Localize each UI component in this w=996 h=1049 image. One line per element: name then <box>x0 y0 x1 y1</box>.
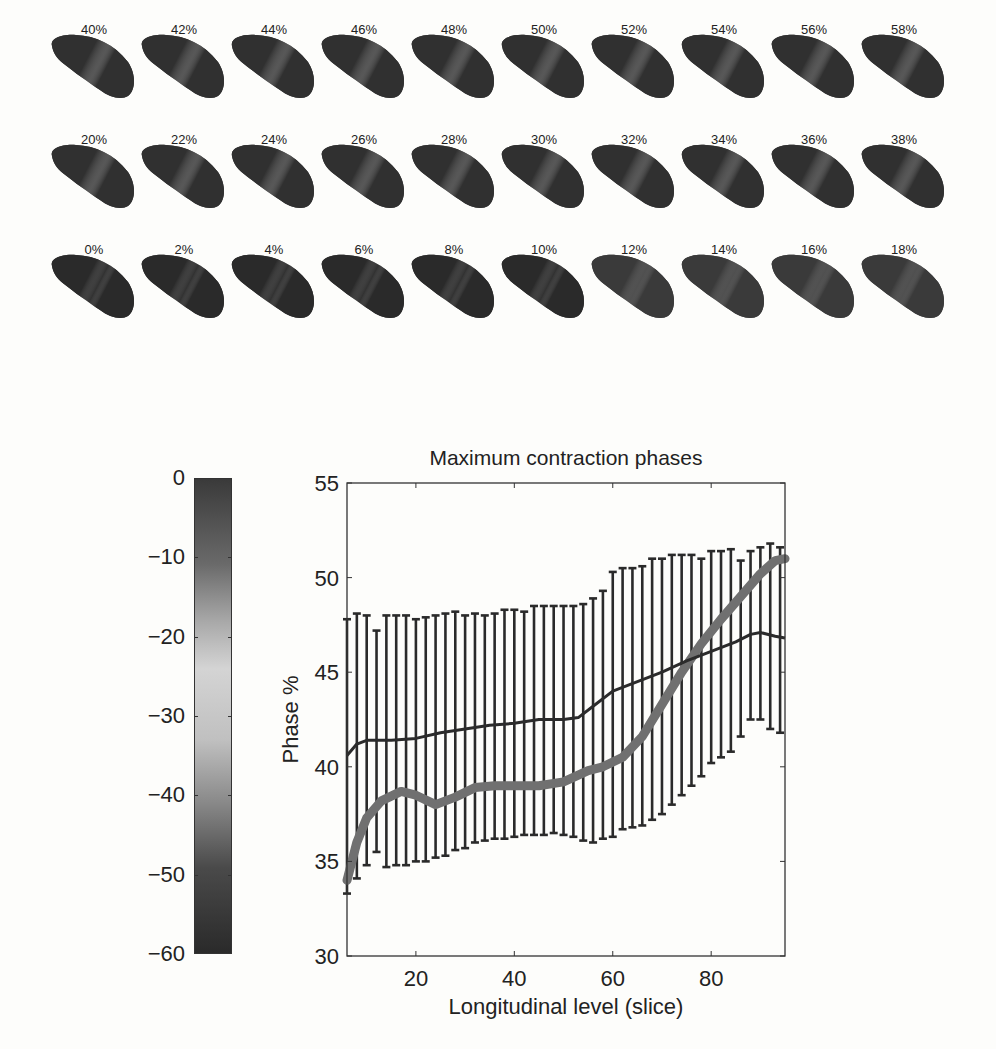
phase-thumbnail: 12% <box>588 242 680 322</box>
ventricle-shape-icon <box>48 142 140 214</box>
phase-thumbnail: 52% <box>588 22 680 102</box>
x-tick-label: 80 <box>699 966 723 991</box>
phase-thumbnail: 0% <box>48 242 140 322</box>
colorbar-tick-mark <box>194 716 198 717</box>
phase-thumbnail: 50% <box>498 22 590 102</box>
x-tick-label: 60 <box>601 966 625 991</box>
y-tick-label: 55 <box>315 471 339 496</box>
colorbar-tick-mark <box>194 795 198 796</box>
ventricle-shape-icon <box>678 142 770 214</box>
colorbar-tick-label: −50 <box>115 862 185 888</box>
ventricle-shape-icon <box>588 142 680 214</box>
colorbar-tick-label: −60 <box>115 941 185 967</box>
ventricle-shape-icon <box>498 142 590 214</box>
phase-thumbnail: 26% <box>318 132 410 212</box>
phase-thumbnail: 58% <box>858 22 950 102</box>
colorbar-tick-mark <box>228 557 232 558</box>
y-axis-label: Phase % <box>278 675 303 763</box>
y-tick-label: 35 <box>315 849 339 874</box>
colorbar-tick-mark <box>194 637 198 638</box>
phase-thumbnail: 40% <box>48 22 140 102</box>
colorbar-tick-label: 0 <box>115 465 185 491</box>
phase-thumbnail: 34% <box>678 132 770 212</box>
colorbar-tick-mark <box>228 637 232 638</box>
colorbar-tick-mark <box>194 875 198 876</box>
ventricle-shape-icon <box>498 32 590 104</box>
colorbar-tick-label: −40 <box>115 782 185 808</box>
phase-thumbnail: 38% <box>858 132 950 212</box>
ventricle-shape-icon <box>138 32 230 104</box>
series-line-thin-dark <box>347 633 785 756</box>
ventricle-shape-icon <box>228 142 320 214</box>
ventricle-shape-icon <box>858 252 950 324</box>
colorbar-tick-mark <box>228 875 232 876</box>
colorbar-tick-label: −10 <box>115 544 185 570</box>
ventricle-shape-icon <box>318 252 410 324</box>
contraction-phase-chart: Maximum contraction phases30354045505520… <box>270 430 830 1049</box>
phase-thumbnail: 10% <box>498 242 590 322</box>
phase-thumbnail: 32% <box>588 132 680 212</box>
phase-thumbnail: 56% <box>768 22 860 102</box>
ventricle-shape-icon <box>768 252 860 324</box>
phase-thumbnail: 54% <box>678 22 770 102</box>
x-tick-label: 20 <box>404 966 428 991</box>
ventricle-shape-icon <box>678 32 770 104</box>
ventricle-shape-icon <box>678 252 770 324</box>
colorbar-tick-mark <box>194 557 198 558</box>
y-tick-label: 40 <box>315 755 339 780</box>
ventricle-shape-icon <box>498 252 590 324</box>
phase-thumbnail: 18% <box>858 242 950 322</box>
phase-thumbnail: 22% <box>138 132 230 212</box>
phase-thumbnail: 14% <box>678 242 770 322</box>
phase-thumbnail-grid: 40%42%44%46%48%50%52%54%56%58%20%22%24%2… <box>0 0 996 420</box>
ventricle-shape-icon <box>138 142 230 214</box>
colorbar-tick-label: −30 <box>115 703 185 729</box>
colorbar-tick-label: −20 <box>115 624 185 650</box>
ventricle-shape-icon <box>48 252 140 324</box>
x-axis-label: Longitudinal level (slice) <box>449 994 684 1019</box>
phase-thumbnail: 6% <box>318 242 410 322</box>
y-tick-label: 30 <box>315 944 339 969</box>
colorbar-tick-mark <box>228 716 232 717</box>
phase-thumbnail: 20% <box>48 132 140 212</box>
ventricle-shape-icon <box>768 142 860 214</box>
y-tick-label: 50 <box>315 566 339 591</box>
ventricle-shape-icon <box>408 142 500 214</box>
ventricle-shape-icon <box>588 32 680 104</box>
phase-thumbnail: 28% <box>408 132 500 212</box>
ventricle-shape-icon <box>48 32 140 104</box>
ventricle-shape-icon <box>768 32 860 104</box>
phase-thumbnail: 36% <box>768 132 860 212</box>
ventricle-shape-icon <box>318 142 410 214</box>
ventricle-shape-icon <box>858 142 950 214</box>
phase-thumbnail: 42% <box>138 22 230 102</box>
phase-thumbnail: 44% <box>228 22 320 102</box>
ventricle-shape-icon <box>408 252 500 324</box>
phase-thumbnail: 8% <box>408 242 500 322</box>
phase-thumbnail: 4% <box>228 242 320 322</box>
ventricle-shape-icon <box>138 252 230 324</box>
ventricle-shape-icon <box>318 32 410 104</box>
colorbar <box>194 478 232 954</box>
ventricle-shape-icon <box>858 32 950 104</box>
phase-thumbnail: 2% <box>138 242 230 322</box>
ventricle-shape-icon <box>228 32 320 104</box>
chart-title: Maximum contraction phases <box>429 446 702 469</box>
colorbar-tick-mark <box>228 795 232 796</box>
phase-thumbnail: 46% <box>318 22 410 102</box>
y-tick-label: 45 <box>315 660 339 685</box>
phase-thumbnail: 48% <box>408 22 500 102</box>
ventricle-shape-icon <box>588 252 680 324</box>
ventricle-shape-icon <box>228 252 320 324</box>
x-tick-label: 40 <box>502 966 526 991</box>
ventricle-shape-icon <box>408 32 500 104</box>
phase-thumbnail: 30% <box>498 132 590 212</box>
phase-thumbnail: 16% <box>768 242 860 322</box>
phase-thumbnail: 24% <box>228 132 320 212</box>
